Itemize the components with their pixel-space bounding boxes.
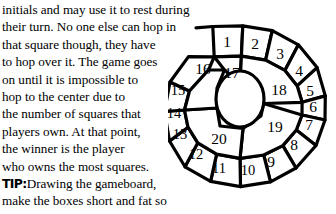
board-label-20: 20 <box>211 130 227 147</box>
board-label-19: 19 <box>267 118 283 135</box>
board-label-14: 14 <box>168 105 182 121</box>
board-label-1: 1 <box>223 33 231 50</box>
board-label-13: 13 <box>173 126 188 142</box>
board-label-4: 4 <box>295 62 303 79</box>
board-label-12: 12 <box>189 146 204 162</box>
board-label-10: 10 <box>241 162 256 178</box>
board-label-8: 8 <box>290 136 298 153</box>
board-center-goal <box>216 71 264 127</box>
tip-label: TIP: <box>2 176 27 191</box>
board-label-3: 3 <box>276 45 284 62</box>
board-label-18: 18 <box>271 81 287 98</box>
board-label-7: 7 <box>305 116 313 133</box>
board-label-11: 11 <box>212 160 226 176</box>
board-label-17: 17 <box>224 64 240 81</box>
gameboard-svg: 1 2 3 4 5 6 7 8 9 10 11 12 13 14 15 16 1… <box>168 0 336 214</box>
tip-line: Drawing the gameboard, <box>27 176 157 191</box>
spiral-gameboard-illustration: 1 2 3 4 5 6 7 8 9 10 11 12 13 14 15 16 1… <box>168 0 336 214</box>
board-label-6: 6 <box>309 98 317 115</box>
board-label-9: 9 <box>267 153 275 170</box>
board-label-2: 2 <box>251 35 259 52</box>
board-label-16: 16 <box>195 60 211 77</box>
book-page: initials and may use it to rest during t… <box>0 0 336 214</box>
board-label-5: 5 <box>306 82 314 99</box>
spiral-start-stroke <box>196 27 213 28</box>
board-label-15: 15 <box>171 82 186 98</box>
